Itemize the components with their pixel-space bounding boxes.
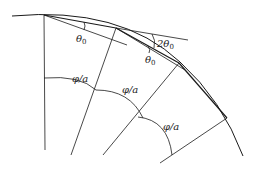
radius-3 (103, 63, 179, 155)
label-theta0-1: θ0 (76, 33, 87, 46)
label-phi-over-a-2: φ/a (122, 84, 138, 95)
chord-3 (179, 63, 227, 118)
radius-1 (44, 15, 45, 150)
angle-arc-theta0-1 (84, 22, 85, 30)
arc-chord-diagram: θ0 2θ0 θ0 φ/a φ/a φ/a (0, 0, 254, 175)
diagram-canvas: θ0 2θ0 θ0 φ/a φ/a φ/a (0, 0, 254, 175)
label-phi-over-a-1: φ/a (72, 73, 88, 84)
label-theta0-2: θ0 (145, 54, 156, 67)
label-phi-over-a-3: φ/a (163, 121, 179, 132)
